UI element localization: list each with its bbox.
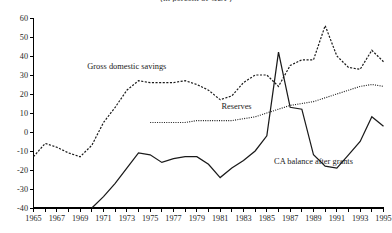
chart-svg: -40-30-20-100102030405060 19651967196919… — [0, 0, 392, 233]
series-label-reserves: Reserves — [221, 102, 251, 111]
y-tick-label: -40 — [17, 204, 28, 213]
series-line-reserves — [150, 85, 383, 123]
y-tick-label: 40 — [20, 52, 28, 61]
x-tick-label: 1977 — [165, 214, 181, 223]
chart-figure: (in percent of GDP) -40-30-20-1001020304… — [0, 0, 392, 233]
y-tick-label: -30 — [17, 185, 28, 194]
x-tick-label: 1981 — [212, 214, 228, 223]
x-tick-label: 1975 — [142, 214, 158, 223]
series-label-gross-domestic-savings: Gross domestic savings — [87, 62, 166, 71]
y-tick-label: 10 — [20, 109, 28, 118]
x-tick-label: 1967 — [49, 214, 65, 223]
x-tick-label: 1983 — [235, 214, 251, 223]
y-tick-label: 20 — [20, 90, 28, 99]
x-tick-label: 1995 — [375, 214, 391, 223]
y-tick-label: 0 — [24, 128, 28, 137]
x-tick-label: 1973 — [119, 214, 135, 223]
x-axis: 1965196719691971197319751977197919811983… — [25, 208, 391, 223]
x-tick-label: 1979 — [189, 214, 205, 223]
y-tick-label: 50 — [20, 33, 28, 42]
chart-plot-area: -40-30-20-100102030405060 19651967196919… — [0, 0, 392, 233]
series-layer — [34, 26, 384, 208]
x-tick-label: 1987 — [282, 214, 298, 223]
y-axis: -40-30-20-100102030405060 — [17, 14, 33, 213]
series-line-gross-domestic-savings — [34, 26, 384, 157]
x-tick-label: 1969 — [72, 214, 88, 223]
y-tick-label: -20 — [17, 166, 28, 175]
x-tick-label: 1989 — [305, 214, 321, 223]
x-tick-label: 1993 — [352, 214, 368, 223]
y-tick-label: -10 — [17, 147, 28, 156]
series-line-ca-balance-after-grants — [92, 52, 384, 208]
x-tick-label: 1965 — [25, 214, 41, 223]
y-tick-label: 60 — [20, 14, 28, 23]
x-tick-label: 1985 — [259, 214, 275, 223]
y-tick-label: 30 — [20, 71, 28, 80]
x-tick-label: 1991 — [329, 214, 345, 223]
x-tick-label: 1971 — [95, 214, 111, 223]
series-label-ca-balance-after-grants: CA balance after grants — [274, 157, 353, 166]
